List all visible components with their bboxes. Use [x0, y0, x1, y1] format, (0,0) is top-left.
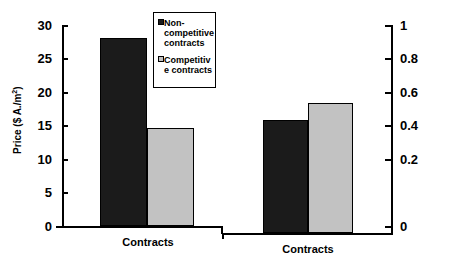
category-label-right: Contracts	[262, 244, 354, 255]
bar-quality-competitive	[308, 103, 353, 233]
right-tick-label-1: 1	[400, 19, 434, 32]
left-tick-mark-20	[62, 92, 68, 94]
right-tick-label-0-6: 0.6	[400, 86, 434, 99]
left-tick-label-25: 25	[22, 52, 52, 65]
legend-entry-non-competitive: Non-competitive contracts	[158, 18, 215, 48]
right-tick-label-0: 0	[400, 220, 434, 233]
right-tick-label-0-4: 0.4	[400, 119, 434, 132]
right-tick-label-0-2: 0.2	[400, 153, 434, 166]
right-tick-mark-1	[385, 25, 391, 27]
right-tick-mark-0-8	[385, 58, 391, 60]
category-label-left: Contracts	[102, 237, 194, 248]
right-y-axis-line	[391, 25, 393, 233]
bar-price-non-competitive	[100, 38, 147, 226]
left-tick-mark-25	[62, 58, 68, 60]
legend-label-competitive: Competitive contracts	[164, 55, 214, 75]
right-panel-baseline	[222, 233, 393, 235]
left-tick-mark-5	[62, 192, 68, 194]
right-tick-label-0-8: 0.8	[400, 52, 434, 65]
left-tick-mark-15	[62, 125, 68, 127]
left-tick-label-5: 5	[22, 186, 52, 199]
left-panel-baseline	[62, 226, 222, 228]
left-tick-label-20: 20	[22, 86, 52, 99]
chart-legend: Non-competitive contracts Competitive co…	[153, 12, 216, 88]
left-tick-mark-10	[62, 159, 68, 161]
right-panel-start-tick	[222, 233, 224, 239]
legend-label-non-competitive: Non-competitive contracts	[164, 18, 214, 48]
bar-quality-non-competitive	[263, 120, 308, 233]
left-y-axis-tick-labels: 30 25 20 15 10 5 0	[22, 0, 52, 266]
left-tick-label-30: 30	[22, 19, 52, 32]
right-tick-mark-0-4	[385, 125, 391, 127]
left-tick-label-15: 15	[22, 119, 52, 132]
bar-chart-figure: Price ($ A./m2) 30 25 20 15 10 5 0 Quali…	[0, 0, 455, 266]
right-tick-mark-0-6	[385, 92, 391, 94]
right-tick-mark-0	[385, 226, 391, 228]
bar-price-competitive	[147, 128, 194, 226]
right-tick-mark-0-2	[385, 159, 391, 161]
left-tick-mark-30	[62, 25, 68, 27]
legend-entry-competitive: Competitive contracts	[158, 55, 215, 75]
left-y-axis-title-superscript: 2	[11, 90, 18, 94]
left-tick-label-0: 0	[22, 220, 52, 233]
left-tick-label-10: 10	[22, 153, 52, 166]
right-y-axis-tick-labels: 1 0.8 0.6 0.4 0.2 0	[400, 0, 434, 266]
